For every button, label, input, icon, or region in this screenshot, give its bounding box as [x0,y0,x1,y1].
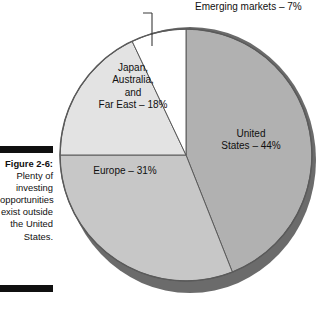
caption-rule-top [0,146,53,153]
figure-label: Figure 2-6: [0,158,53,170]
pie-chart: United States – 44% Japan, Australia, an… [55,0,335,312]
figure-caption-block: Figure 2-6: Plenty of investing opportun… [0,146,54,243]
pie-label-japan-far-east: Japan, Australia, and Far East – 18% [85,62,181,112]
pie-label-europe: Europe – 31% [65,165,185,177]
pie-chart-svg [55,0,335,312]
figure-caption-text: Figure 2-6: Plenty of investing opportun… [0,158,53,243]
pie-label-united-states: United States – 44% [203,128,299,153]
pie-label-emerging-markets: Emerging markets – 7% [195,1,335,13]
figure-caption: Plenty of investing opportunities exist … [0,170,53,243]
caption-rule-bottom [0,285,53,292]
